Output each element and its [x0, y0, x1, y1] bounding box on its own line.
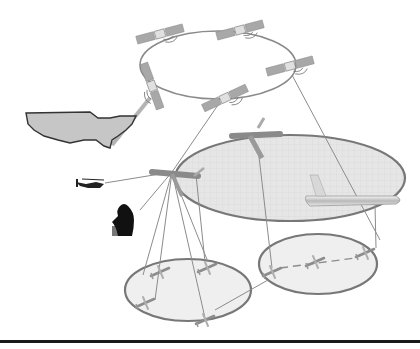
satellite-icon [216, 20, 266, 47]
satellite-icon [136, 24, 186, 51]
continental-us-icon [26, 112, 136, 148]
helicopter-icon [76, 179, 104, 188]
uav-cluster-right [259, 234, 377, 294]
soldier-icon [112, 204, 134, 236]
satellite-orbit-ring [140, 31, 296, 99]
satellite-icon [202, 84, 252, 118]
airborne-network-zone [175, 135, 405, 221]
uav-cluster-left [125, 259, 251, 321]
network-diagram [0, 0, 420, 349]
baseline-rule [0, 340, 420, 343]
